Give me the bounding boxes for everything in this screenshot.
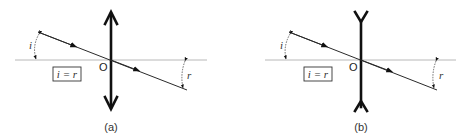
- panel-b: i r O i = r (b): [265, 12, 456, 133]
- equation-label: i = r: [57, 68, 78, 80]
- refracted-angle-marker: [182, 61, 185, 88]
- caption-b: (b): [354, 121, 367, 133]
- optics-figure: i r O i = r (a) i: [0, 0, 471, 140]
- incident-angle-marker: [285, 34, 290, 59]
- origin-label: O: [99, 61, 108, 73]
- equation-label: i = r: [308, 68, 329, 80]
- origin-label: O: [349, 61, 358, 73]
- caption-a: (a): [104, 121, 117, 133]
- refracted-angle-label: r: [439, 69, 444, 81]
- incident-angle-marker: [35, 34, 39, 59]
- refracted-angle-label: r: [187, 69, 192, 81]
- incident-angle-label: i: [29, 39, 32, 51]
- incident-angle-label: i: [280, 39, 283, 51]
- refracted-angle-marker: [433, 61, 436, 88]
- panel-a: i r O i = r (a): [15, 12, 207, 133]
